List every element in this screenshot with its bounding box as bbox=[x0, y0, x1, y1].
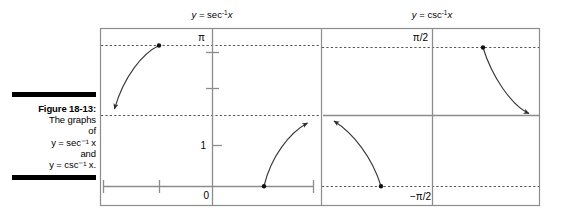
sec-right-branch-endpoint-dot bbox=[262, 184, 266, 188]
sec-label-pi: π bbox=[198, 32, 205, 43]
csc-upper-right-endpoint-dot bbox=[481, 45, 485, 49]
csc-upper-right-branch-curve bbox=[483, 48, 529, 114]
panel-csc-inverse: y = csc-1x π/2 −π/2 bbox=[322, 9, 539, 206]
sec-left-branch-curve bbox=[115, 46, 160, 110]
csc-label-pi-over-2: π/2 bbox=[413, 32, 429, 43]
sec-label-zero: 0 bbox=[203, 190, 209, 201]
sec-label-one: 1 bbox=[200, 140, 206, 151]
panel-title-sec: y = sec-1x bbox=[191, 9, 234, 21]
sec-left-branch-endpoint-dot bbox=[157, 43, 161, 47]
panel-sec-inverse: y = sec-1x π 1 0 bbox=[101, 9, 321, 206]
sec-right-branch-curve bbox=[264, 123, 308, 186]
panel-title-csc: y = csc-1x bbox=[411, 9, 454, 21]
csc-label-neg-pi-over-2: −π/2 bbox=[410, 191, 432, 202]
figure-18-13: Figure 18-13: The graphs of y = sec⁻¹ x … bbox=[0, 0, 568, 221]
csc-lower-left-endpoint-dot bbox=[379, 184, 383, 188]
plot-frame bbox=[101, 29, 540, 206]
graphs-svg: y = sec-1x π 1 0 bbox=[0, 0, 568, 221]
csc-lower-left-branch-curve bbox=[334, 121, 381, 186]
